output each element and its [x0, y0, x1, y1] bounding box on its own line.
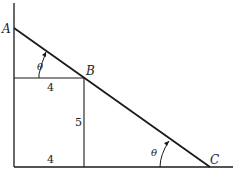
triangle-diagram: A B C θ θ 4 5 4: [0, 0, 235, 181]
label-angle-upper: θ: [37, 61, 43, 72]
angle-arc-lower: [160, 141, 169, 167]
hypotenuse-AC: [14, 28, 210, 167]
label-length-upper: 4: [47, 81, 54, 94]
label-angle-lower: θ: [151, 147, 157, 158]
label-length-vertical: 5: [75, 116, 82, 129]
label-point-A: A: [1, 22, 11, 36]
label-length-bottom: 4: [47, 153, 54, 166]
label-point-C: C: [210, 153, 219, 167]
label-point-B: B: [85, 64, 95, 78]
arrowhead-lower: [164, 141, 169, 146]
